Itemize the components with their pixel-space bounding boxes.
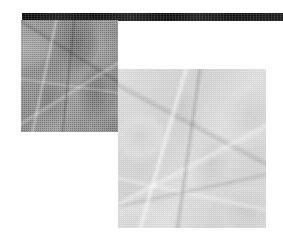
figure-canvas <box>0 0 283 241</box>
texture-left-ridges <box>21 20 118 132</box>
texture-right-ridges <box>118 69 266 228</box>
texture-panel-left <box>21 20 118 132</box>
texture-panel-right <box>118 69 266 228</box>
